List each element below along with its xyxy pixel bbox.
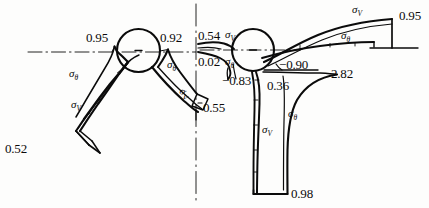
sigma-theta-left-inner-symbol: σθ — [167, 59, 176, 73]
value-label-right-vertical-end: 0.98 — [291, 187, 313, 200]
sigma-theta-right-top-symbol: σθ — [225, 56, 234, 70]
right-2-82-leader — [263, 72, 337, 75]
stress-distribution-figure: 0.95 0.92 0.52 0.55 0.54 0.02 −0.83 −0.9… — [0, 0, 429, 208]
right-sigma-v-arc — [264, 19, 392, 62]
sigma-v-left-outer-symbol: σV — [71, 99, 81, 113]
value-label-right-below: 0.36 — [267, 79, 289, 92]
right-vertical-sigma-theta — [287, 75, 337, 195]
sigma-v-right-horizontal-symbol: σV — [352, 4, 362, 18]
sigma-theta-right-horizontal-symbol: σθ — [341, 30, 350, 44]
left-band-to-circle — [128, 55, 139, 62]
left-limb-end-join — [92, 141, 100, 153]
right-vertical-sigma-v — [256, 72, 260, 194]
value-label-left-crown-left: 0.95 — [86, 31, 108, 44]
value-label-right-invert-right: −0.90 — [279, 58, 308, 71]
right-sigma-v-upper-left-curve-2 — [198, 47, 221, 49]
value-label-left-limb-end: 0.52 — [5, 142, 27, 155]
value-label-right-horizontal-end: 0.95 — [399, 9, 421, 22]
right-vertical-left-edge — [252, 72, 255, 194]
value-label-right-springline-left: 0.02 — [198, 55, 220, 68]
sigma-theta-right-vertical-symbol: σθ — [288, 108, 297, 122]
sigma-theta-left-outer-symbol: σθ — [69, 68, 78, 82]
value-label-right-upper-left: 0.54 — [198, 29, 220, 42]
value-label-left-crown-right: 0.92 — [160, 31, 182, 44]
right-vertical-inner-edge — [283, 76, 284, 190]
sigma-v-right-top-symbol: σV — [225, 29, 235, 43]
sigma-v-right-vertical-symbol: σV — [262, 124, 272, 138]
value-label-right-junction: 2.82 — [331, 67, 353, 80]
value-label-left-lower-right: 0.55 — [203, 101, 225, 114]
value-label-right-invert-left: −0.83 — [222, 74, 251, 87]
left-sigma-theta-outer-curve — [84, 47, 128, 120]
